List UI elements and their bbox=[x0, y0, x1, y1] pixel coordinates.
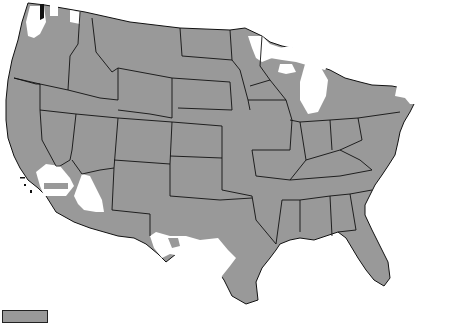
puget-sound bbox=[40, 4, 44, 20]
shaded-strip-california bbox=[44, 183, 68, 189]
legend bbox=[2, 310, 68, 324]
legend-swatch-shaded bbox=[2, 310, 48, 323]
unshaded-washington-north bbox=[50, 4, 58, 16]
unshaded-south-florida bbox=[374, 288, 388, 294]
unshaded-washington-east bbox=[70, 10, 80, 24]
